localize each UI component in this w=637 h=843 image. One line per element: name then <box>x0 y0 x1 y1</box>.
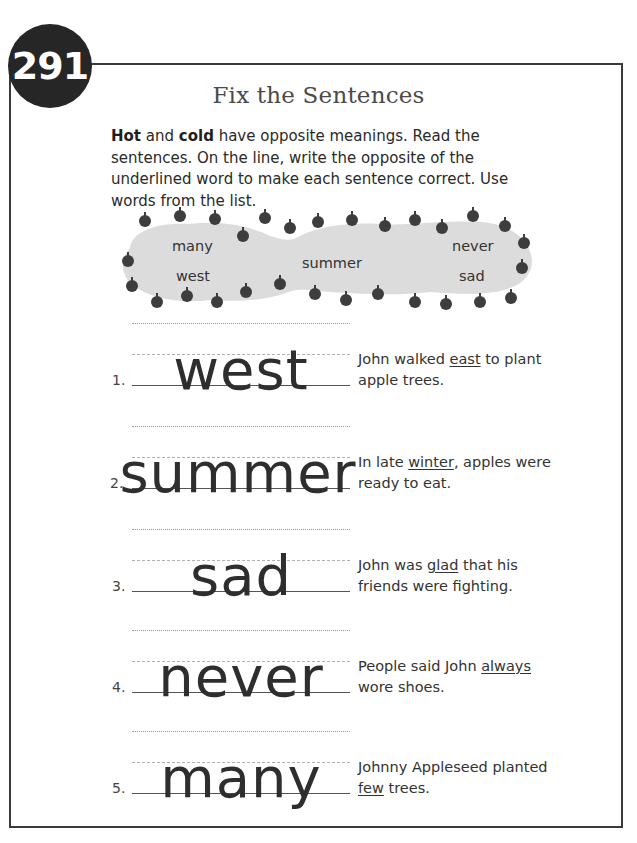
sentence-text: trees. <box>384 780 430 796</box>
sentence: Johnny Appleseed planted few trees. <box>358 757 558 799</box>
page-title: Fix the Sentences <box>0 82 637 108</box>
answer-field[interactable]: sad <box>132 532 350 594</box>
sentence: John was glad that his friends were figh… <box>358 555 558 597</box>
underlined-word: few <box>358 780 384 796</box>
answer-field[interactable]: west <box>132 326 350 388</box>
guide-line-top <box>132 323 350 324</box>
exercise-item: 1. west John walked east to plant apple … <box>100 310 560 410</box>
exercise-item: 5. many Johnny Appleseed planted few tre… <box>100 718 560 818</box>
sentence-text: John was <box>358 557 427 573</box>
exercise-item: 4. never People said John always wore sh… <box>100 617 560 717</box>
item-number: 1. <box>112 372 125 388</box>
guide-line-top <box>132 630 350 631</box>
word-bank-item: many <box>172 238 213 254</box>
underlined-word: glad <box>427 557 458 573</box>
sentence: John walked east to plant apple trees. <box>358 349 558 391</box>
answer-text: summer <box>119 445 356 501</box>
guide-line-top <box>132 426 350 427</box>
word-bank-item: sad <box>459 268 485 284</box>
item-number: 4. <box>112 679 125 695</box>
answer-text: many <box>160 750 322 806</box>
sentence-text: People said John <box>358 658 481 674</box>
sentence-text: Johnny Appleseed planted <box>358 759 548 775</box>
sentence-text: John walked <box>358 351 450 367</box>
sentence-text: In late <box>358 454 408 470</box>
item-number: 3. <box>112 578 125 594</box>
guide-line-top <box>132 529 350 530</box>
exercise-item: 3. sad John was glad that his friends we… <box>100 516 560 616</box>
answer-text: never <box>158 649 324 705</box>
instructions-text: and <box>141 127 179 145</box>
underlined-word: always <box>481 658 531 674</box>
guide-line-top <box>132 731 350 732</box>
instructions-bold-hot: Hot <box>111 127 141 145</box>
word-bank-item: never <box>452 238 494 254</box>
word-bank-item: summer <box>302 255 362 271</box>
sentence: In late winter, apples were ready to eat… <box>358 452 558 494</box>
sentence-text: wore shoes. <box>358 679 445 695</box>
answer-field[interactable]: never <box>132 633 350 695</box>
underlined-word: east <box>450 351 481 367</box>
word-bank: many west summer never sad <box>110 200 540 320</box>
instructions-bold-cold: cold <box>179 127 214 145</box>
answer-field[interactable]: summer <box>124 429 352 491</box>
sentence: People said John always wore shoes. <box>358 656 558 698</box>
answer-text: sad <box>190 548 292 604</box>
word-bank-item: west <box>176 268 210 284</box>
exercise-item: 2. summer In late winter, apples were re… <box>100 413 560 513</box>
item-number: 5. <box>112 780 125 796</box>
page-number: 291 <box>12 44 88 88</box>
page-number-badge: 291 <box>8 24 92 108</box>
underlined-word: winter <box>408 454 454 470</box>
answer-field[interactable]: many <box>132 734 350 796</box>
answer-text: west <box>173 342 308 398</box>
